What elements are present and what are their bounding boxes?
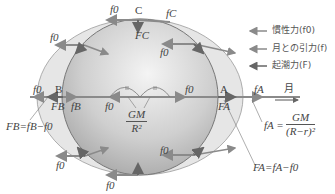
label-f0-C: f0 — [110, 4, 119, 15]
point-B: B — [55, 84, 62, 95]
fA-denominator: (R−r)² — [286, 125, 315, 137]
label-f0-right: f0 — [185, 84, 194, 95]
label-FA: FA — [218, 101, 230, 112]
label-f0-upper-right: f0 — [160, 47, 169, 58]
label-FC: FC — [135, 30, 149, 41]
label-f0-upper-left: f0 — [50, 32, 59, 43]
fA-numerator: GM — [286, 112, 315, 125]
gm-over-r2: GM R² — [126, 109, 147, 134]
label-fC: fC — [166, 8, 176, 19]
label-f0-lower-left: f0 — [56, 160, 65, 171]
gm-denominator: R² — [126, 122, 147, 134]
point-C: C — [135, 5, 142, 16]
label-f0-bottom: f0 — [106, 180, 115, 191]
legend-moon-gravity: 月との引力(f) — [272, 44, 327, 53]
label-f0-lower-right: f0 — [160, 145, 169, 156]
label-moon: 月 — [284, 84, 294, 94]
point-A: A — [220, 84, 228, 95]
FA-equation: FA=fA−f0 — [253, 162, 298, 173]
FB-equation: FB=fB−f0 — [6, 121, 53, 132]
label-f0-center: f0 — [105, 101, 114, 112]
legend-inertial-force: 慣性力(f0) — [272, 26, 315, 35]
legend-tidal-force: 起潮力(F) — [272, 61, 311, 70]
label-fB: fB — [71, 101, 81, 112]
label-FB: FB — [51, 101, 64, 112]
gm-numerator: GM — [126, 109, 147, 122]
fA-equation-fraction: GM (R−r)² — [286, 112, 315, 137]
fA-equation-lhs: fA = — [264, 120, 284, 131]
label-f0-B: f0 — [33, 84, 42, 95]
label-fA: fA — [254, 84, 264, 95]
